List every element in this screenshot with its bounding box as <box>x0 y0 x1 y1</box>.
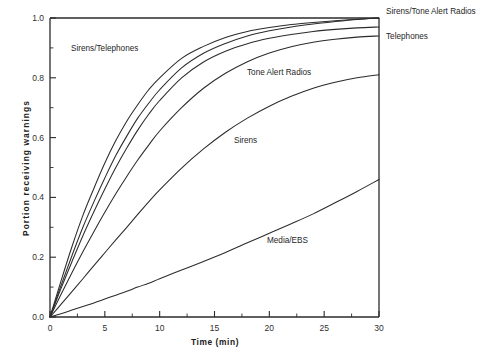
warning-diffusion-line-chart: 051015202530 0.00.20.40.60.81.0 Sirens/T… <box>0 0 485 352</box>
y-tick-label: 0.2 <box>32 252 44 262</box>
series-label: Sirens/Tone Alert Radios <box>386 7 476 16</box>
x-tick-label: 30 <box>374 323 384 333</box>
y-tick-label: 1.0 <box>32 13 44 23</box>
x-tick-label: 15 <box>210 323 220 333</box>
x-axis-title: Time (min) <box>191 337 239 347</box>
x-tick-label: 25 <box>319 323 329 333</box>
x-tick-label: 20 <box>265 323 275 333</box>
series-label: Telephones <box>386 32 428 41</box>
x-tick-label: 0 <box>48 323 53 333</box>
y-tick-label: 0.6 <box>32 133 44 143</box>
y-axis-title: Portion receiving warnings <box>21 100 31 236</box>
y-tick-label: 0.4 <box>32 192 44 202</box>
x-tick-label: 5 <box>102 323 107 333</box>
series-label: Tone Alert Radios <box>247 68 311 77</box>
y-tick-label: 0.8 <box>32 73 44 83</box>
chart-container: 051015202530 0.00.20.40.60.81.0 Sirens/T… <box>0 0 485 352</box>
series-label: Media/EBS <box>267 236 308 245</box>
y-tick-label: 0.0 <box>32 312 44 322</box>
series-label: Sirens <box>234 136 257 145</box>
x-tick-label: 10 <box>155 323 165 333</box>
series-label: Sirens/Telephones <box>71 44 138 53</box>
